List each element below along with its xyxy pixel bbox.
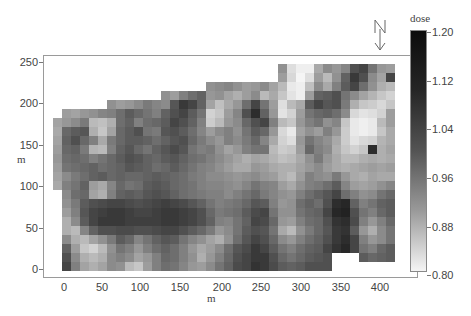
heatmap-cell [341, 199, 350, 208]
heatmap-cell [179, 253, 188, 262]
x-tick-50: 50 [87, 282, 117, 293]
heatmap-cell [197, 163, 206, 172]
heatmap-cell [314, 127, 323, 136]
heatmap-cell [125, 199, 134, 208]
y-tick-250: 250 [20, 57, 38, 68]
heatmap-cell [296, 172, 305, 181]
heatmap-cell [269, 82, 278, 91]
heatmap-cell [269, 235, 278, 244]
heatmap-cell [188, 199, 197, 208]
heatmap-cell [377, 109, 386, 118]
heatmap-cell [197, 91, 206, 100]
heatmap-cell [350, 226, 359, 235]
heatmap-cell [323, 262, 332, 271]
heatmap-cell [314, 235, 323, 244]
heatmap-cell [242, 226, 251, 235]
heatmap-cell [242, 190, 251, 199]
heatmap-cell [386, 118, 395, 127]
heatmap-cell [98, 172, 107, 181]
heatmap-cell [161, 91, 170, 100]
heatmap-cell [152, 163, 161, 172]
heatmap-cell [80, 199, 89, 208]
heatmap-cell [89, 226, 98, 235]
heatmap-cell [125, 262, 134, 271]
heatmap-cell [386, 217, 395, 226]
heatmap-cell [368, 217, 377, 226]
heatmap-cell [314, 73, 323, 82]
heatmap-cell [305, 154, 314, 163]
heatmap-cell [62, 118, 71, 127]
heatmap-cell [260, 100, 269, 109]
heatmap-cell [134, 127, 143, 136]
heatmap-cell [314, 91, 323, 100]
heatmap-cell [359, 208, 368, 217]
heatmap-cell [107, 127, 116, 136]
heatmap-cell [233, 82, 242, 91]
heatmap-cell [62, 190, 71, 199]
heatmap-cell [242, 109, 251, 118]
heatmap-cell [386, 109, 395, 118]
heatmap-cell [368, 127, 377, 136]
heatmap-cell [80, 208, 89, 217]
heatmap-cell [332, 109, 341, 118]
heatmap-cell [197, 127, 206, 136]
x-tick-150: 150 [165, 282, 195, 293]
heatmap-cell [242, 91, 251, 100]
heatmap-cell [143, 100, 152, 109]
heatmap-cell [242, 262, 251, 271]
heatmap-cell [125, 118, 134, 127]
heatmap-cell [134, 244, 143, 253]
heatmap-cell [314, 145, 323, 154]
heatmap-cell [179, 91, 188, 100]
heatmap-cell [143, 199, 152, 208]
heatmap-cell [125, 217, 134, 226]
heatmap-cell [341, 145, 350, 154]
heatmap-cell [233, 145, 242, 154]
heatmap-cell [80, 253, 89, 262]
heatmap-cell [161, 136, 170, 145]
heatmap-cell [359, 181, 368, 190]
heatmap-cell [287, 181, 296, 190]
heatmap-cell [89, 244, 98, 253]
heatmap-cell [341, 226, 350, 235]
heatmap-cell [350, 145, 359, 154]
heatmap-cell [305, 244, 314, 253]
heatmap-cell [350, 100, 359, 109]
heatmap-cell [350, 190, 359, 199]
heatmap-cell [287, 127, 296, 136]
heatmap-cell [116, 262, 125, 271]
heatmap-cell [179, 145, 188, 154]
heatmap-cell [89, 262, 98, 271]
heatmap-cell [215, 100, 224, 109]
heatmap-cell [143, 208, 152, 217]
heatmap-cell [107, 253, 116, 262]
heatmap-cell [116, 154, 125, 163]
heatmap-cell [287, 190, 296, 199]
heatmap-cell [359, 154, 368, 163]
heatmap-cell [287, 163, 296, 172]
heatmap-cell [278, 127, 287, 136]
heatmap-cell [206, 100, 215, 109]
heatmap-cell [125, 181, 134, 190]
heatmap-cell [197, 226, 206, 235]
heatmap-cell [287, 109, 296, 118]
heatmap-cell [143, 154, 152, 163]
heatmap-cell [152, 208, 161, 217]
heatmap-cell [368, 100, 377, 109]
heatmap-cell [332, 100, 341, 109]
heatmap-cell [107, 244, 116, 253]
heatmap-cell [125, 190, 134, 199]
heatmap-cell [242, 127, 251, 136]
heatmap-cell [314, 253, 323, 262]
heatmap-cell [350, 73, 359, 82]
heatmap-cell [215, 208, 224, 217]
heatmap-cell [224, 253, 233, 262]
heatmap-cell [161, 208, 170, 217]
heatmap-cell [233, 226, 242, 235]
heatmap-cell [179, 199, 188, 208]
heatmap-cell [323, 82, 332, 91]
heatmap-cell [251, 109, 260, 118]
heatmap-cell [296, 64, 305, 73]
heatmap-cell [224, 190, 233, 199]
heatmap-cell [359, 82, 368, 91]
